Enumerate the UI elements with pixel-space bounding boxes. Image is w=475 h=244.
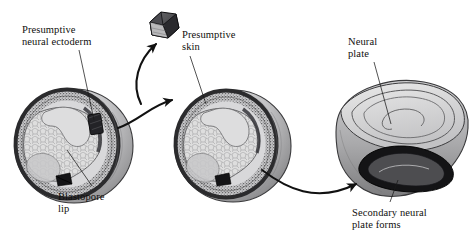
label-line-1: Presumptive [182,29,236,40]
graft-site-marker [88,113,104,135]
transplant-arrow [118,100,172,128]
result-embryo [336,80,468,196]
host-cut-face [176,91,276,197]
excision-arrow [136,44,156,104]
label-line-1: Presumptive [22,24,76,35]
label-line-2: neural ectoderm [22,36,91,47]
label-line-2: plate forms [352,219,401,230]
label-line-2: plate [348,48,369,59]
donor-cut-face [16,90,118,198]
leader-presumptive-skin [190,56,206,104]
label-neural-plate: Neural plate [348,36,377,59]
label-line-1: Secondary neural [352,207,427,218]
label-line-1: Neural [348,36,377,47]
label-line-2: lip [58,203,69,214]
host-embryo [175,90,291,202]
graft-tissue-block [150,12,179,38]
label-presumptive-skin: Presumptive skin [182,29,236,52]
label-line-1: Blastopore [58,191,105,202]
label-presumptive-neural-ectoderm: Presumptive neural ectoderm [22,24,91,47]
label-line-2: skin [182,41,200,52]
label-secondary-neural-plate-forms: Secondary neural plate forms [352,207,427,230]
donor-embryo [15,89,133,203]
label-blastopore-lip: Blastopore lip [58,191,105,214]
